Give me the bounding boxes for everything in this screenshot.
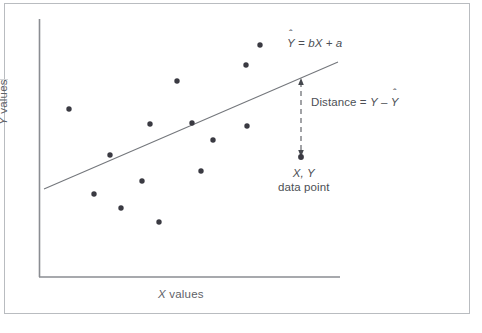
scatter-point	[91, 191, 96, 196]
data-point-coords: X, Y	[278, 166, 330, 180]
scatter-point	[107, 152, 112, 157]
scatter-point	[174, 78, 179, 83]
x-axis-title-plain: values	[166, 288, 204, 300]
data-point-callout-label: X, Y data point	[278, 166, 330, 194]
scatter-point	[139, 178, 144, 183]
scatter-point	[198, 168, 203, 173]
scatterplot-figure: ̂Y = bX + a Distance = Y – ̂Y X, Y data …	[0, 0, 482, 333]
residual-distance-label: Distance = Y – ̂Y	[311, 96, 399, 108]
y-axis-title: Y values	[0, 79, 9, 125]
highlighted-data-point	[298, 154, 304, 160]
scatter-point	[257, 42, 262, 47]
scatter-point	[118, 205, 123, 210]
regression-equation-label: ̂Y = bX + a	[287, 37, 342, 49]
x-axis-title: X values	[158, 288, 204, 300]
scatter-point	[210, 137, 215, 142]
y-axis-title-italic: Y	[0, 117, 9, 125]
scatter-point	[189, 120, 194, 125]
residual-distance-arrow	[298, 78, 304, 157]
scatter-point	[244, 123, 249, 128]
scatter-point	[243, 62, 248, 67]
distance-prefix: Distance =	[311, 96, 370, 108]
distance-term-y: Y	[370, 96, 378, 108]
scatter-point	[147, 121, 152, 126]
regression-equation-rhs: = bX + a	[295, 37, 343, 49]
scatter-point	[156, 219, 161, 224]
scatter-points	[66, 42, 304, 224]
scatter-point	[66, 106, 71, 111]
distance-minus-sign: –	[378, 96, 391, 108]
x-axis-title-italic: X	[158, 288, 166, 300]
data-point-caption: data point	[278, 180, 330, 194]
plot-canvas	[0, 0, 482, 333]
y-axis-title-plain: values	[0, 79, 9, 117]
